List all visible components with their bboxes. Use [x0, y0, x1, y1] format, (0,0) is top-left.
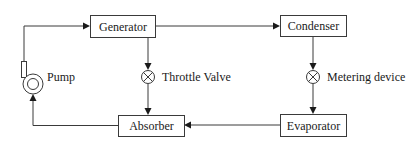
flow-throttle-valve-to-absorber: [145, 84, 152, 115]
absorption-cycle-diagram: Generator Condenser Absorber Evaporator …: [0, 0, 420, 146]
evaporator-box: Evaporator: [281, 115, 347, 137]
throttle-valve-label: Throttle Valve: [162, 70, 231, 84]
generator-label: Generator: [99, 20, 147, 34]
flow-evaporator-to-absorber: [184, 122, 280, 129]
throttle-valve-icon: [142, 71, 155, 84]
absorber-label: Absorber: [129, 119, 174, 133]
pump-label: Pump: [47, 70, 75, 84]
flow-metering-device-to-evaporator: [310, 84, 317, 114]
condenser-box: Condenser: [281, 16, 347, 37]
pump-icon: [22, 62, 44, 95]
evaporator-label: Evaporator: [287, 119, 340, 133]
flow-condenser-to-metering-device: [310, 36, 317, 70]
generator-box: Generator: [91, 16, 156, 38]
flow-generator-to-condenser: [155, 23, 280, 30]
flow-absorber-to-pump: [30, 94, 119, 126]
metering-device-label: Metering device: [327, 70, 405, 84]
flow-pump-to-generator: [24, 23, 90, 65]
flow-generator-to-throttle-valve: [145, 37, 152, 70]
absorber-box: Absorber: [119, 116, 185, 137]
condenser-label: Condenser: [288, 19, 339, 33]
metering-device-icon: [307, 71, 320, 84]
